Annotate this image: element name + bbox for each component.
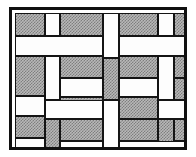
tile-t01 [15,13,45,36]
tile-t02 [45,13,60,36]
tile-t28 [103,100,119,147]
tile-t27 [60,119,103,141]
tile-t34 [119,141,184,147]
tile-plane [12,10,184,147]
tile-t26 [45,119,60,147]
tile-t29 [119,119,158,141]
tile-t18 [119,78,158,97]
tile-t12 [60,56,103,78]
tile-t07 [174,13,184,36]
tile-t21 [174,78,184,100]
tile-t20 [119,97,158,119]
tile-t32 [15,138,45,147]
tile-t17 [60,78,103,97]
tile-t10 [15,56,45,96]
tile-t09 [119,36,184,56]
tile-t31 [174,119,184,141]
tile-t11 [45,56,60,100]
figure-frame [9,7,187,150]
tile-t04 [103,13,119,58]
tile-t03 [60,13,103,36]
tile-t16 [174,56,184,78]
tile-t22 [15,96,45,116]
tile-t14 [119,56,158,78]
tile-t33 [60,141,103,147]
basketweave-figure [0,0,196,157]
tile-t25 [158,100,184,119]
tile-t15 [158,56,174,100]
tile-t23 [15,116,45,138]
tile-t24 [45,100,103,119]
tile-t13 [103,58,119,100]
tile-t06 [158,13,174,36]
tile-t08 [15,36,103,56]
tile-t05 [119,13,158,36]
